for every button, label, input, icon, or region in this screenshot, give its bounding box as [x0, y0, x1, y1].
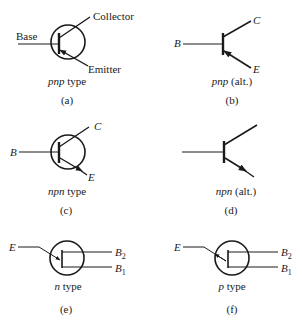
base-label: B: [10, 146, 17, 158]
emitter-label: E: [173, 241, 181, 253]
envelope-circle: [215, 241, 249, 275]
panel-letter: (c): [60, 204, 73, 217]
panel-letter: (a): [61, 94, 74, 107]
emitter-label: E: [8, 241, 16, 253]
emitter-lead: [183, 247, 226, 261]
panel-letter: (f): [227, 303, 238, 316]
emitter-label: E: [252, 63, 260, 75]
collector-label: C: [94, 120, 102, 132]
panel-b-pnp-alt-symbol: B C E pnp (alt.) (b): [174, 14, 261, 107]
envelope-circle: [50, 241, 84, 275]
collector-lead: [223, 21, 251, 37]
b2-label: B2: [281, 246, 292, 261]
collector-lead: [59, 127, 89, 147]
panel-letter: (e): [60, 303, 73, 316]
type-caption: npn (alt.): [216, 185, 257, 198]
panel-c-npn-symbol: B C E npn type (c): [10, 120, 102, 217]
emitter-arrow: [225, 158, 246, 171]
base-label: Base: [16, 30, 38, 42]
panel-f-ujt-p-symbol: E B2 B1 p type (f): [173, 241, 292, 316]
b1-label: B1: [115, 262, 126, 277]
type-caption: n type: [54, 280, 81, 292]
emitter-label: Emitter: [88, 63, 121, 75]
type-caption: npn type: [48, 185, 86, 197]
panel-d-npn-alt-symbol: npn (alt.) (d): [182, 125, 257, 217]
b1-label: B1: [281, 262, 292, 277]
collector-lead: [224, 125, 257, 145]
panel-a-pnp-symbol: Base Collector Emitter pnp type (a): [16, 10, 134, 107]
collector-label: Collector: [93, 10, 134, 22]
type-caption: pnp (alt.): [211, 75, 253, 88]
emitter-arrow: [224, 51, 251, 68]
emitter-label: E: [87, 171, 95, 183]
emitter-arrow: [215, 254, 226, 261]
type-caption: pnp type: [47, 75, 86, 87]
emitter-arrow: [18, 247, 60, 260]
panel-letter: (b): [226, 94, 239, 107]
base-label: B: [174, 37, 181, 49]
panel-letter: (d): [225, 204, 238, 217]
collector-label: C: [253, 14, 261, 26]
type-caption: p type: [217, 280, 245, 292]
transistor-symbols-diagram: Base Collector Emitter pnp type (a) B C …: [0, 0, 302, 329]
emitter-lead: [80, 170, 87, 175]
panel-e-ujt-n-symbol: E B2 B1 n type (e): [8, 241, 126, 316]
b2-label: B2: [115, 246, 126, 261]
collector-lead: [59, 17, 90, 38]
emitter-lead: [244, 170, 254, 177]
